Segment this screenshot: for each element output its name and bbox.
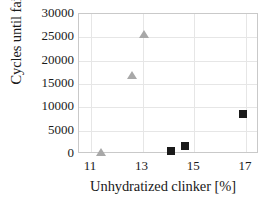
y-tick-label: 15000	[42, 76, 75, 90]
x-tick-label: 11	[75, 158, 105, 174]
data-point-binder	[167, 147, 175, 155]
vertical-gridline	[246, 14, 247, 152]
y-tick-label: 30000	[42, 6, 75, 20]
horizontal-gridline	[79, 37, 257, 38]
plot-inner	[79, 14, 257, 152]
horizontal-gridline	[79, 131, 257, 132]
plot-area: binder UHPC	[78, 13, 258, 153]
scatter-chart-figure: Cycles until failure 0500010000150002000…	[0, 0, 275, 208]
data-point-uhpc	[139, 30, 149, 38]
y-tick-label: 10000	[42, 99, 75, 113]
x-axis-tick-labels: 11131517	[0, 158, 275, 174]
x-tick-label: 15	[178, 158, 208, 174]
y-tick-label: 25000	[42, 29, 75, 43]
data-point-binder	[239, 110, 247, 118]
horizontal-gridline	[79, 61, 257, 62]
horizontal-gridline	[79, 84, 257, 85]
data-point-uhpc	[96, 148, 106, 156]
x-axis-title: Unhydratized clinker [%]	[55, 176, 271, 196]
vertical-gridline	[194, 14, 195, 152]
x-tick-label: 13	[127, 158, 157, 174]
vertical-gridline	[91, 14, 92, 152]
y-tick-label: 20000	[42, 53, 75, 67]
data-point-binder	[181, 142, 189, 150]
horizontal-gridline	[79, 107, 257, 108]
data-point-uhpc	[127, 71, 137, 79]
y-tick-label: 5000	[48, 123, 74, 137]
x-tick-label: 17	[230, 158, 260, 174]
